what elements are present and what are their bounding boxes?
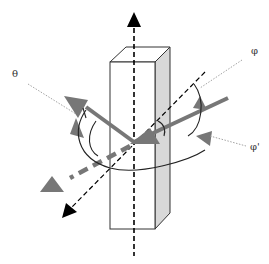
down-left-arrow-icon — [62, 203, 77, 218]
phi-prime-label: φ' — [250, 141, 260, 152]
theta-inner-arc — [89, 121, 98, 156]
phi-label: φ — [251, 45, 258, 56]
upper-left-arrowhead-icon — [64, 96, 88, 118]
theta-arc-arrowhead-icon — [70, 118, 84, 138]
lower-left-triangle-icon — [40, 176, 64, 192]
prism-front-face — [110, 62, 155, 229]
rotation-diagram — [0, 0, 269, 264]
prism-side-face — [155, 47, 170, 229]
theta-label: θ — [12, 68, 18, 79]
up-arrow-icon — [127, 12, 141, 27]
phi-prime-arc-arrowhead-icon — [196, 131, 212, 146]
